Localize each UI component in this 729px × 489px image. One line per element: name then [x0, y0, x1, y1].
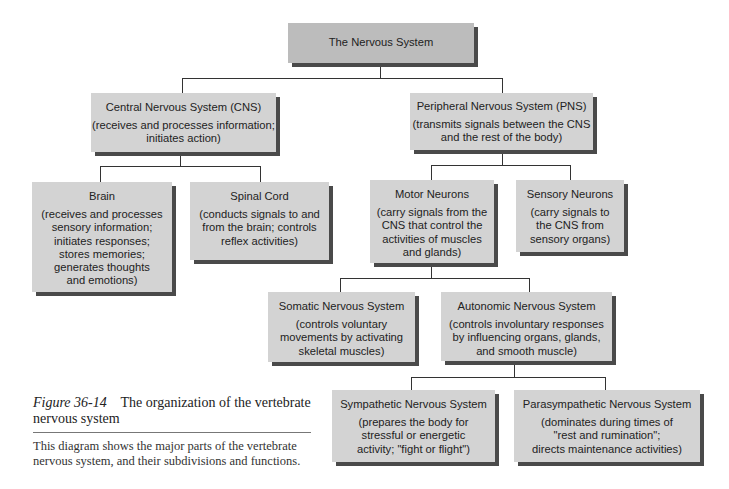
node-brain: Brain (receives and processes sensory in…	[32, 182, 172, 292]
node-description: (conducts signals to and from the brain;…	[190, 208, 329, 248]
node-title: Central Nervous System (CNS)	[91, 101, 276, 114]
connector-motor-stem	[431, 263, 432, 278]
connector-to-sympathetic	[411, 377, 412, 390]
connector-pns-stem	[502, 150, 503, 165]
connector-autonomic-branch	[411, 377, 605, 378]
connector-root-stem	[380, 63, 381, 79]
node-description: (controls voluntary movements by activat…	[268, 318, 415, 358]
node-spinal-cord: Spinal Cord (conducts signals to and fro…	[190, 182, 329, 260]
connector-autonomic-stem	[514, 361, 515, 377]
node-nervous-system: The Nervous System	[288, 23, 474, 63]
connector-to-cns	[182, 78, 183, 93]
connector-to-somatic	[340, 278, 341, 292]
node-description: (controls involuntary responses by influ…	[441, 318, 612, 358]
connector-to-brain	[100, 166, 101, 182]
node-description: (prepares the body for stressful or ener…	[332, 416, 495, 456]
connector-motor-branch	[340, 278, 529, 279]
caption-body: This diagram shows the major parts of th…	[33, 439, 311, 469]
connector-pns-branch	[431, 165, 570, 166]
node-title: Sensory Neurons	[516, 188, 624, 201]
node-motor-neurons: Motor Neurons (carry signals from the CN…	[370, 180, 494, 263]
figure-caption: Figure 36-14 The organization of the ver…	[33, 395, 311, 469]
node-sympathetic: Sympathetic Nervous System (prepares the…	[332, 390, 495, 462]
connector-to-autonomic	[529, 278, 530, 292]
connector-root-branch	[182, 78, 502, 79]
node-title: Spinal Cord	[190, 190, 329, 203]
connector-to-parasympathetic	[605, 377, 606, 390]
node-title: Sympathetic Nervous System	[332, 398, 495, 411]
node-title: Autonomic Nervous System	[441, 300, 612, 313]
node-description: (receives and processes information; ini…	[91, 119, 276, 145]
connector-to-motor	[431, 165, 432, 180]
node-description: (carry signals from the CNS that control…	[370, 206, 494, 259]
connector-cns-branch	[100, 166, 260, 167]
node-title: Motor Neurons	[370, 188, 494, 201]
node-cns: Central Nervous System (CNS) (receives a…	[91, 93, 276, 152]
caption-divider	[33, 432, 311, 433]
node-title: Parasympathetic Nervous System	[514, 398, 700, 411]
node-parasympathetic: Parasympathetic Nervous System (dominate…	[514, 390, 700, 462]
node-somatic: Somatic Nervous System (controls volunta…	[268, 292, 415, 362]
connector-to-pns	[502, 78, 503, 93]
caption-title: Figure 36-14 The organization of the ver…	[33, 395, 311, 427]
node-description: (carry signals to the CNS from sensory o…	[516, 206, 624, 246]
node-sensory-neurons: Sensory Neurons (carry signals to the CN…	[516, 180, 624, 252]
node-title: Peripheral Nervous System (PNS)	[410, 100, 593, 113]
node-description: (transmits signals between the CNS and t…	[410, 118, 593, 144]
node-title: Somatic Nervous System	[268, 300, 415, 313]
node-title: The Nervous System	[288, 36, 474, 49]
connector-to-sensory	[570, 165, 571, 180]
node-title: Brain	[32, 190, 172, 203]
node-description: (dominates during times of "rest and rum…	[514, 416, 700, 456]
node-autonomic: Autonomic Nervous System (controls invol…	[441, 292, 612, 361]
connector-to-spinal-cord	[260, 166, 261, 182]
node-description: (receives and processes sensory informat…	[32, 208, 172, 287]
figure-number: Figure 36-14	[33, 395, 107, 410]
node-pns: Peripheral Nervous System (PNS) (transmi…	[410, 93, 593, 150]
connector-cns-stem	[180, 152, 181, 166]
